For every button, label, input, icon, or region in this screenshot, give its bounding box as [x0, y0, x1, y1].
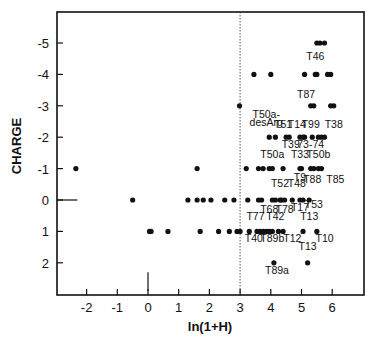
annotation-label: T13: [299, 240, 317, 252]
data-point: [244, 166, 249, 171]
data-point: [165, 229, 170, 234]
x-axis-ticks: -2-10123456: [81, 289, 336, 315]
data-point: [280, 166, 285, 171]
x-tick-label: 0: [144, 300, 151, 315]
annotation-label: T38: [325, 118, 343, 130]
data-point: [245, 197, 250, 202]
x-tick-label: 2: [206, 300, 213, 315]
annotation-label: T89b: [260, 232, 284, 244]
data-point: [198, 229, 203, 234]
annotation-label: T89a: [265, 264, 289, 276]
data-point: [328, 72, 333, 77]
y-axis-title: CHARGE: [9, 118, 24, 175]
point-annotations: T46T87T50a-desArgT51T14T99T38T3973-74T50…: [245, 50, 345, 276]
annotation-label: T52: [271, 177, 289, 189]
y-tick-label: -4: [37, 67, 49, 82]
data-point: [314, 72, 319, 77]
annotation-label: T99: [302, 118, 320, 130]
data-point: [148, 229, 153, 234]
data-point: [227, 229, 232, 234]
data-point: [201, 197, 206, 202]
annotation-label: T87: [297, 88, 315, 100]
data-point: [302, 72, 307, 77]
data-point: [311, 166, 316, 171]
annotation-label: T10: [315, 232, 333, 244]
data-point: [331, 103, 336, 108]
data-point: [322, 40, 327, 45]
x-axis-title: ln(1+H): [188, 319, 232, 334]
data-point: [195, 197, 200, 202]
data-point: [216, 229, 221, 234]
x-tick-label: 5: [298, 300, 305, 315]
data-point: [251, 72, 256, 77]
annotation-label: T77: [246, 210, 264, 222]
reference-lines: [57, 12, 240, 295]
annotation-label: T46: [306, 50, 324, 62]
annotation-label: T50a: [260, 148, 284, 160]
data-point: [237, 103, 242, 108]
data-point: [317, 40, 322, 45]
data-point: [267, 135, 272, 140]
annotation-label: T48: [288, 177, 306, 189]
y-tick-label: -3: [37, 99, 49, 114]
data-point: [195, 166, 200, 171]
y-tick-label: 0: [42, 193, 49, 208]
y-axis-ticks: -5-4-3-2-1012: [37, 36, 63, 271]
scatter-chart: -2-10123456 -5-4-3-2-1012 T46T87T50a-des…: [0, 0, 375, 347]
x-tick-label: 3: [236, 300, 243, 315]
y-tick-label: 1: [42, 224, 49, 239]
data-point: [268, 72, 273, 77]
x-tick-label: -1: [112, 300, 124, 315]
data-point: [130, 197, 135, 202]
y-tick-label: -2: [37, 130, 49, 145]
data-point: [270, 166, 275, 171]
annotation-label: T13: [300, 210, 318, 222]
data-point: [319, 166, 324, 171]
data-point: [273, 135, 278, 140]
annotation-label: T53: [305, 198, 323, 210]
y-tick-label: 2: [42, 256, 49, 271]
data-point: [185, 197, 190, 202]
x-tick-label: 1: [175, 300, 182, 315]
x-tick-label: -2: [81, 300, 93, 315]
data-point: [208, 197, 213, 202]
annotation-label: T42: [266, 210, 284, 222]
x-tick-label: 4: [267, 300, 274, 315]
data-point: [73, 166, 78, 171]
y-tick-label: -5: [37, 36, 49, 51]
data-point: [238, 229, 243, 234]
data-point: [261, 166, 266, 171]
annotation-label: T85: [326, 173, 344, 185]
x-tick-label: 6: [329, 300, 336, 315]
data-point: [311, 103, 316, 108]
data-point: [256, 166, 261, 171]
data-point: [222, 197, 227, 202]
data-point: [305, 260, 310, 265]
annotation-label: T50b: [306, 148, 330, 160]
data-point: [231, 197, 236, 202]
y-tick-label: -1: [37, 162, 49, 177]
